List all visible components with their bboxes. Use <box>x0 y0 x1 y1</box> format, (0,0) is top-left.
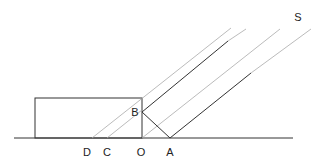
ray-o <box>142 29 280 138</box>
ray-d <box>92 28 231 138</box>
label-o: O <box>137 147 146 158</box>
segment-ba <box>142 112 170 138</box>
ray-a-light <box>251 29 311 73</box>
label-c: C <box>103 147 111 158</box>
ray-a-dark <box>170 73 251 138</box>
diagram-canvas <box>0 0 321 166</box>
label-s: S <box>294 12 301 23</box>
label-a: A <box>166 147 173 158</box>
ray-b-light <box>228 29 246 41</box>
shadow-geometry-diagram: S B D C O A <box>0 0 321 166</box>
label-b: B <box>131 107 138 118</box>
building-rect <box>35 98 142 138</box>
label-d: D <box>83 147 91 158</box>
